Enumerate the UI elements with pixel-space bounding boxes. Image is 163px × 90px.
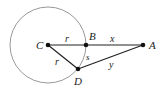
point-B	[84, 43, 89, 48]
label-segment-BA: x	[109, 33, 115, 44]
label-B: B	[89, 30, 96, 42]
label-A: A	[148, 39, 156, 51]
point-C	[46, 43, 51, 48]
label-C: C	[36, 39, 44, 51]
segment-CD	[48, 45, 78, 69]
point-A	[141, 43, 146, 48]
label-D: D	[73, 75, 82, 87]
label-segment-CB: r	[65, 33, 69, 44]
label-segment-DA: y	[108, 59, 114, 70]
label-arc-BD: s	[86, 52, 90, 62]
label-segment-CD: r	[55, 56, 59, 67]
geometry-diagram: C B A D r x r y s	[0, 0, 163, 90]
point-D	[76, 67, 81, 72]
